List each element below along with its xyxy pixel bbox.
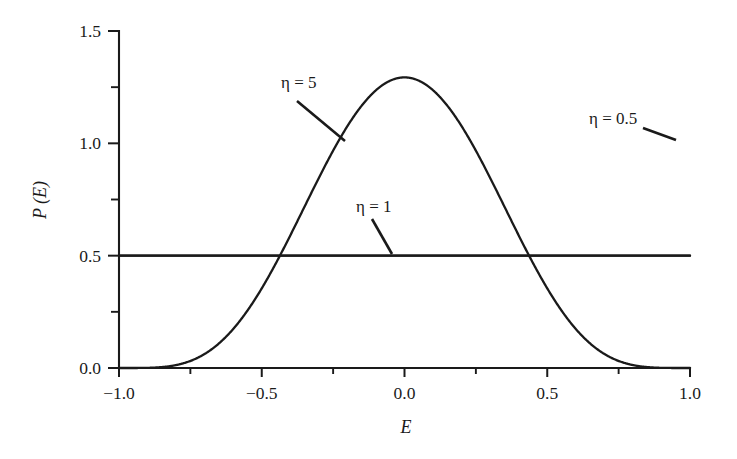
y-axis-title: P (E) bbox=[30, 181, 51, 220]
x-tick-label: 0.5 bbox=[536, 383, 558, 403]
y-tick-label: 1.5 bbox=[79, 21, 101, 41]
y-tick-label: 1.0 bbox=[79, 133, 101, 153]
annotation-2: η = 0.5 bbox=[589, 109, 637, 128]
x-tick-label: 0.0 bbox=[394, 383, 416, 403]
x-tick-label: 1.0 bbox=[679, 383, 701, 403]
annotation-0: η = 5 bbox=[281, 73, 316, 92]
y-tick-label: 0.5 bbox=[79, 246, 101, 266]
x-tick-label: −1.0 bbox=[103, 383, 135, 403]
x-tick-label: −0.5 bbox=[246, 383, 278, 403]
y-tick-label: 0.0 bbox=[79, 358, 101, 378]
chart-figure: −1.0−0.50.00.51.0 0.00.51.01.5 η = 5η = … bbox=[0, 0, 737, 459]
annotation-1: η = 1 bbox=[356, 197, 391, 216]
x-axis-title: E bbox=[400, 417, 412, 437]
